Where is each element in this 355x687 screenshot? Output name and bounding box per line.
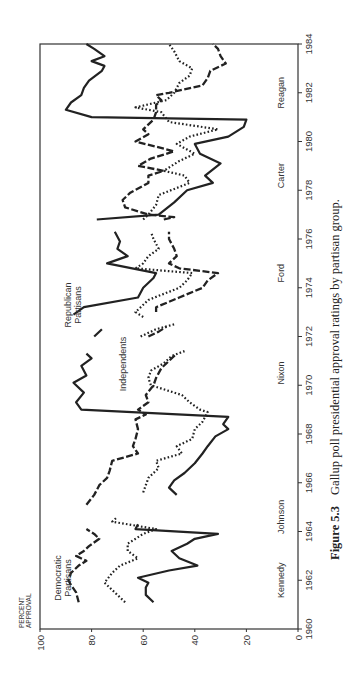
- series-segment: [74, 354, 229, 495]
- y-axis-label-line2: APPROVAL: [25, 593, 32, 628]
- plot-border: [40, 44, 298, 629]
- x-axis: 1960196219641966196819701972197419761978…: [298, 33, 314, 639]
- democratic-label-line1: Democratic: [53, 555, 63, 601]
- x-tick-label: 1960: [303, 618, 314, 639]
- x-tick-label: 1966: [303, 472, 314, 493]
- series-segment: [66, 44, 247, 220]
- y-tick-label: 0: [293, 635, 304, 640]
- president-label-nixon: Nixon: [276, 362, 286, 385]
- y-tick-label: 60: [138, 635, 149, 646]
- series-segment: [94, 329, 102, 336]
- president-label-kennedy: Kennedy: [276, 562, 286, 598]
- series-segment: [141, 324, 175, 336]
- president-label-carter: Carter: [276, 163, 286, 188]
- caption-text: Gallup poll presidential approval rating…: [328, 199, 342, 495]
- x-tick-label: 1972: [303, 326, 314, 347]
- x-tick-label: 1962: [303, 570, 314, 591]
- x-tick-label: 1984: [303, 33, 314, 54]
- y-tick-label: 80: [86, 635, 97, 646]
- series-labels: Democratic Partisans Republican Partisan…: [53, 282, 128, 600]
- figure-caption: Figure 5.3 Gallup poll presidential appr…: [328, 199, 342, 560]
- independents-label: Independents: [118, 336, 128, 391]
- y-axis-label: PERCENT APPROVAL: [18, 593, 32, 628]
- series-segment: [74, 232, 157, 315]
- x-tick-label: 1970: [303, 375, 314, 396]
- x-tick-label: 1976: [303, 228, 314, 249]
- republican-label-line2: Partisans: [73, 286, 83, 324]
- president-label-reagan: Reagan: [276, 77, 286, 109]
- y-tick-label: 100: [35, 635, 46, 651]
- president-label-johnson: Johnson: [276, 500, 286, 534]
- series-segment: [68, 529, 99, 602]
- svg-text:Figure 5.3 Gallup poll p: Figure 5.3 Gallup poll presidential appr…: [328, 199, 342, 560]
- y-axis-label-line1: PERCENT: [18, 597, 25, 628]
- y-tick-label: 40: [189, 635, 200, 646]
- series-segment: [86, 354, 176, 505]
- republican-label-line1: Republican: [63, 282, 73, 327]
- series-segment: [136, 524, 219, 602]
- x-tick-label: 1968: [303, 423, 314, 444]
- series-segment: [136, 44, 219, 220]
- president-labels: KennedyJohnsonNixonFordCarterReagan: [276, 77, 286, 598]
- plot-frame: [40, 44, 298, 629]
- x-tick-label: 1978: [303, 180, 314, 201]
- y-tick-label: 20: [241, 635, 252, 646]
- president-label-ford: Ford: [276, 264, 286, 283]
- x-tick-label: 1980: [303, 131, 314, 152]
- democratic-label-line2: Partisans: [63, 559, 73, 597]
- y-axis: 020406080100: [35, 629, 304, 651]
- series-lines: [66, 44, 247, 602]
- series-independents: [105, 44, 219, 602]
- x-tick-label: 1974: [303, 277, 314, 298]
- approval-chart: 020406080100 196019621964196619681970197…: [0, 0, 355, 687]
- series-segment: [123, 44, 226, 220]
- x-tick-label: 1964: [303, 521, 314, 542]
- series-republican-partisans: [66, 44, 247, 602]
- caption-label: Figure 5.3: [328, 506, 342, 560]
- series-segment: [143, 351, 208, 492]
- x-tick-label: 1982: [303, 82, 314, 103]
